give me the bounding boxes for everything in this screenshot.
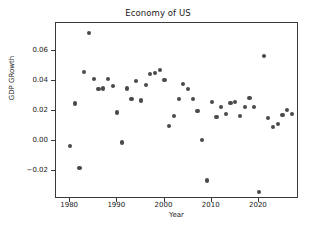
scatter-point — [280, 113, 284, 117]
scatter-point — [257, 190, 261, 194]
scatter-point — [181, 82, 185, 86]
scatter-point — [87, 31, 91, 35]
scatter-point — [106, 77, 110, 81]
scatter-point — [252, 105, 256, 109]
scatter-point — [162, 78, 166, 82]
scatter-point — [262, 54, 266, 58]
scatter-point — [96, 87, 100, 91]
y-axis-tick-mark — [51, 80, 55, 81]
x-axis-tick-label: 1980 — [60, 201, 78, 209]
scatter-point — [271, 125, 275, 129]
y-axis-tick-mark — [51, 110, 55, 111]
scatter-point — [68, 144, 72, 148]
scatter-point — [111, 84, 115, 88]
scatter-point — [200, 138, 204, 142]
x-axis-tick-mark — [69, 198, 70, 202]
x-axis-tick-label: 1990 — [107, 201, 125, 209]
scatter-point — [290, 112, 294, 116]
scatter-point — [276, 122, 280, 126]
x-axis-tick-mark — [164, 198, 165, 202]
x-axis-tick-label: 2020 — [249, 201, 267, 209]
scatter-point — [243, 105, 247, 109]
y-axis-tick-label: 0.06 — [32, 46, 48, 54]
scatter-point — [134, 79, 138, 83]
x-axis-label: Year — [55, 211, 298, 219]
scatter-point — [224, 112, 228, 116]
scatter-point — [125, 86, 129, 90]
y-axis-tick-mark — [51, 170, 55, 171]
y-axis-tick-labels: −0.020.000.020.040.06 — [0, 0, 48, 230]
scatter-point — [92, 77, 96, 81]
scatter-point — [82, 70, 86, 74]
scatter-point — [219, 105, 223, 109]
scatter-point — [210, 100, 214, 104]
scatter-point — [101, 86, 105, 90]
scatter-point — [144, 83, 148, 87]
scatter-point — [205, 178, 209, 182]
x-axis-tick-mark — [116, 198, 117, 202]
x-axis-tick-label: 2010 — [202, 201, 220, 209]
scatter-point — [73, 101, 77, 105]
scatter-point — [177, 97, 181, 101]
y-axis-label: GDP GRowth — [8, 42, 16, 114]
scatter-point — [153, 71, 157, 75]
scatter-point — [120, 140, 124, 144]
scatter-point — [186, 87, 190, 91]
scatter-point — [139, 98, 143, 102]
scatter-point — [233, 100, 237, 104]
x-axis-tick-mark — [258, 198, 259, 202]
x-axis-tick-label: 2000 — [155, 201, 173, 209]
scatter-point — [129, 97, 133, 101]
scatter-point — [228, 101, 232, 105]
y-axis-tick-label: 0.04 — [32, 76, 48, 84]
plot-area — [55, 22, 298, 198]
y-axis-tick-label: 0.02 — [32, 106, 48, 114]
scatter-point — [191, 97, 195, 101]
scatter-point — [247, 96, 251, 100]
scatter-point — [172, 114, 176, 118]
scatter-point — [158, 68, 162, 72]
y-axis-tick-mark — [51, 140, 55, 141]
scatter-point — [167, 124, 171, 128]
scatter-point — [115, 110, 119, 114]
chart-figure: Economy of US −0.020.000.020.040.06 GDP … — [0, 0, 316, 230]
scatter-point — [214, 115, 218, 119]
scatter-point — [285, 108, 289, 112]
scatter-point — [148, 72, 152, 76]
y-axis-tick-mark — [51, 50, 55, 51]
scatter-point — [238, 114, 242, 118]
y-axis-tick-label: −0.02 — [27, 166, 48, 174]
x-axis-tick-mark — [211, 198, 212, 202]
scatter-point — [195, 109, 199, 113]
scatter-point — [266, 116, 270, 120]
y-axis-tick-label: 0.00 — [32, 136, 48, 144]
scatter-point — [77, 166, 81, 170]
